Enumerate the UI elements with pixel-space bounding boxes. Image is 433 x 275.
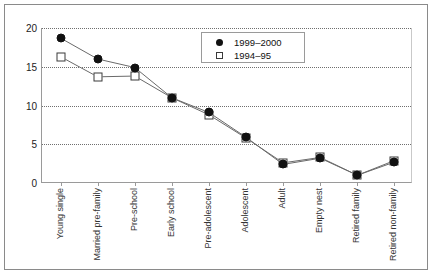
x-tick-label: Retired family — [351, 188, 361, 243]
data-point — [56, 52, 65, 61]
x-tick — [246, 182, 247, 186]
x-tick-label: Early school — [166, 188, 176, 237]
legend-marker-icon — [208, 39, 230, 46]
x-tick — [357, 182, 358, 186]
figure-frame: 05101520 Young singleMarried pre-familyP… — [4, 4, 428, 270]
filled-circle-icon — [216, 39, 223, 46]
legend-item: 1999–2000 — [208, 36, 298, 48]
x-tick — [135, 182, 136, 186]
data-point — [93, 72, 102, 81]
x-tick — [320, 182, 321, 186]
y-tick-label-15: 15 — [26, 61, 37, 72]
data-point — [93, 55, 102, 64]
y-tick-label-20: 20 — [26, 23, 37, 34]
data-point — [390, 158, 399, 167]
x-tick-label: Empty nest — [314, 188, 324, 233]
x-tick — [209, 182, 210, 186]
data-point — [316, 154, 325, 163]
x-tick-label: Pre-adolescent — [203, 188, 213, 249]
series-line — [61, 57, 395, 176]
legend-label: 1999–2000 — [234, 37, 282, 48]
x-tick — [98, 182, 99, 186]
x-tick-label: Adolescent — [240, 188, 250, 233]
x-tick-label: Retired non-family — [388, 188, 398, 261]
data-point — [204, 108, 213, 117]
data-point — [353, 171, 362, 180]
y-tick-label-10: 10 — [26, 100, 37, 111]
data-point — [167, 93, 176, 102]
chart-legend: 1999–20001994–95 — [201, 32, 305, 63]
x-tick — [283, 182, 284, 186]
x-tick — [394, 182, 395, 186]
legend-label: 1994–95 — [234, 50, 271, 61]
y-tick-label-0: 0 — [31, 178, 37, 189]
x-tick-label: Adult — [277, 188, 287, 209]
legend-marker-icon — [208, 52, 230, 59]
data-point — [130, 72, 139, 81]
legend-item: 1994–95 — [208, 49, 298, 61]
x-tick — [172, 182, 173, 186]
x-tick — [61, 182, 62, 186]
data-point — [130, 63, 139, 72]
open-square-icon — [216, 52, 223, 59]
data-point — [242, 133, 251, 142]
data-point — [56, 34, 65, 43]
x-tick-label: Married pre-family — [92, 188, 102, 261]
y-tick-label-5: 5 — [31, 139, 37, 150]
chart-figure: 05101520 Young singleMarried pre-familyP… — [0, 0, 433, 275]
x-tick-label: Young single — [55, 188, 65, 239]
data-point — [279, 160, 288, 169]
x-tick-label: Pre-school — [129, 188, 139, 231]
